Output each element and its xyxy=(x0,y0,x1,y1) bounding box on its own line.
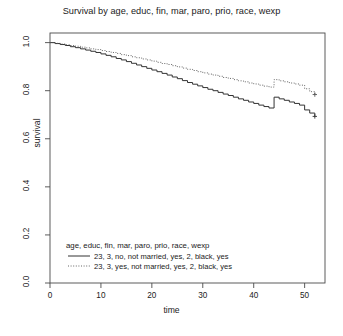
y-tick-label: 0.0 xyxy=(22,270,31,294)
y-tick-label: 0.2 xyxy=(22,221,31,245)
x-tick-label: 10 xyxy=(89,291,113,300)
survival-chart: Survival by age, educ, fin, mar, paro, p… xyxy=(0,0,343,336)
plot-canvas xyxy=(0,0,343,336)
y-tick-label: 0.6 xyxy=(22,125,31,149)
x-axis-label: time xyxy=(0,305,343,315)
censor-marker-1 xyxy=(313,92,317,96)
censor-marker-0 xyxy=(313,114,317,118)
x-tick-label: 40 xyxy=(242,291,266,300)
x-tick-label: 30 xyxy=(191,291,215,300)
x-tick-label: 0 xyxy=(38,291,62,300)
x-tick-label: 20 xyxy=(140,291,164,300)
legend-entry-label-1: 23, 3, yes, not married, yes, 2, black, … xyxy=(94,262,232,271)
y-tick-label: 1.0 xyxy=(22,29,31,53)
legend-title: age, educ, fin, mar, paro, prio, race, w… xyxy=(66,241,209,250)
y-axis-label: survival xyxy=(32,98,42,168)
series-line-0 xyxy=(50,43,315,117)
legend-entry-label-0: 23, 3, no, not married, yes, 2, black, y… xyxy=(94,252,229,261)
x-tick-label: 50 xyxy=(293,291,317,300)
y-tick-label: 0.8 xyxy=(22,77,31,101)
y-tick-label: 0.4 xyxy=(22,173,31,197)
chart-title: Survival by age, educ, fin, mar, paro, p… xyxy=(0,6,343,16)
